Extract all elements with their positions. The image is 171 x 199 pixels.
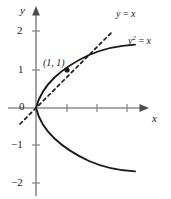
plot-canvas [0, 0, 171, 199]
x-axis-arrow-icon [140, 104, 150, 112]
x-axis-label: x [152, 113, 157, 124]
y-tick-label-1: 1 [18, 64, 24, 75]
y-tick-label-2: 2 [17, 25, 23, 36]
series-curve-upper-branch [36, 45, 135, 108]
series-curve-lower-branch [36, 108, 135, 171]
y-tick-label-0: 0 [19, 101, 25, 112]
curve-equation-equals: = [136, 35, 147, 46]
point-label-1-1: (1, 1) [43, 58, 65, 68]
line-equation-rhs: x [131, 8, 135, 19]
curve-equation-rhs: x [147, 35, 151, 46]
y-axis-label: y [20, 5, 25, 16]
graph-figure: y x 2 1 0 −1 −2 y = x y2 = x (1, 1) [0, 0, 171, 199]
curve-equation-label: y2 = x [128, 35, 151, 46]
y-axis-arrow-icon [32, 6, 40, 16]
y-tick-label-neg2: −2 [11, 177, 23, 188]
line-equation-label: y = x [116, 9, 136, 19]
point-marker-1-1 [64, 67, 69, 72]
y-tick-label-neg1: −1 [11, 139, 23, 150]
line-equation-equals: = [120, 8, 131, 19]
